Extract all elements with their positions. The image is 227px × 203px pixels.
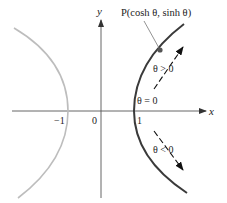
theta-positive-label: θ > 0 <box>153 63 173 74</box>
tick-label-one: 1 <box>137 115 142 126</box>
left-hyperbola-branch <box>14 28 68 198</box>
x-axis-label: x <box>208 105 214 117</box>
point-p-label: P(cosh θ, sinh θ) <box>121 7 192 19</box>
tick-label-zero: 0 <box>92 115 97 126</box>
tick-label-neg-one: −1 <box>54 115 65 126</box>
theta-negative-label: θ < 0 <box>153 144 173 155</box>
theta-zero-label: θ = 0 <box>137 95 157 106</box>
point-p-marker <box>157 47 162 52</box>
hyperbola-diagram: x y −1 0 1 P(cosh θ, sinh θ) θ = 0 θ > 0… <box>0 0 227 203</box>
y-axis-label: y <box>96 5 102 17</box>
point-leader-line <box>144 21 159 48</box>
